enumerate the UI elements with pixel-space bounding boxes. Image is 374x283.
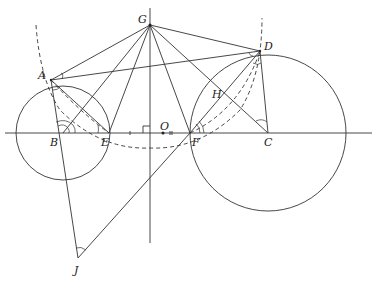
- segment-GA: [51, 25, 150, 80]
- angle-D: [249, 53, 253, 56]
- angle-E: [98, 125, 99, 133]
- right-angle-mark: [143, 126, 150, 133]
- segment-AJ: [51, 80, 78, 258]
- label-J: J: [72, 264, 79, 277]
- segment-DC: [260, 51, 268, 133]
- segment-GE: [109, 25, 150, 133]
- label-C: C: [264, 136, 273, 149]
- angle-J: [76, 247, 86, 250]
- label-G: G: [138, 13, 147, 26]
- segment-GB: [63, 25, 150, 133]
- segment-GD: [150, 25, 260, 51]
- point-G: [149, 24, 152, 27]
- dashed-arc: [36, 18, 262, 148]
- label-H: H: [211, 88, 222, 101]
- segment-JF: [78, 133, 190, 258]
- label-A: A: [37, 69, 46, 82]
- label-O: O: [160, 120, 169, 133]
- label-D: D: [263, 40, 273, 53]
- label-E: E: [100, 136, 109, 149]
- point-D: [259, 50, 261, 52]
- angle-C: [256, 120, 267, 122]
- segment-GC: [150, 25, 268, 133]
- point-A: [50, 79, 52, 81]
- label-F: F: [191, 136, 200, 149]
- angle-D-inner: [253, 63, 261, 65]
- segment-GF: [150, 25, 190, 133]
- label-B: B: [49, 136, 58, 149]
- geometry-diagram: A B C D E F G H J O: [0, 0, 374, 283]
